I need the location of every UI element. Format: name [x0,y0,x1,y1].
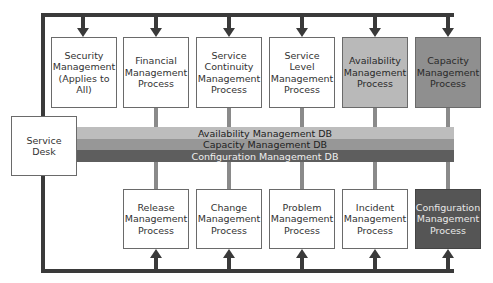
service-level-management-box[interactable]: Service Level Management Process [269,37,335,108]
box-label: Configuration Management Process [416,202,480,237]
availability-management-box[interactable]: Availability Management Process [342,37,408,108]
box-label: Financial Management Process [125,55,188,90]
capacity-management-box[interactable]: Capacity Management Process [415,37,481,108]
arrow-stem [373,15,377,29]
arrow-stem [154,15,158,29]
configuration-management-box[interactable]: Configuration Management Process [415,189,481,249]
left-frame-line-lower [41,174,45,273]
left-frame-line [41,13,45,117]
box-label: Security Management (Applies to All) [53,50,116,96]
box-label: Problem Management Process [271,202,334,237]
connector [300,107,304,128]
connector [300,161,304,190]
arrow-down-icon [77,28,89,37]
box-label: Availability Management Process [344,55,407,90]
connector [373,107,377,128]
box-label: Change Management Process [198,202,261,237]
connector [227,161,231,190]
arrow-down-icon [369,28,381,37]
top-frame-line [41,13,454,17]
box-label: Service Continuity Management Process [198,50,261,96]
connector [227,107,231,128]
arrow-stem [227,257,231,270]
security-management-box[interactable]: Security Management (Applies to All) [51,37,117,108]
bottom-frame-line [41,269,454,273]
financial-management-box[interactable]: Financial Management Process [123,37,189,108]
change-management-box[interactable]: Change Management Process [196,189,262,249]
arrow-stem [373,257,377,270]
arrow-down-icon [223,28,235,37]
release-management-box[interactable]: Release Management Process [123,189,189,249]
connector [446,161,450,190]
connector [154,107,158,128]
service-desk-box[interactable]: Service Desk [11,116,77,176]
arrow-down-icon [296,28,308,37]
connector [154,161,158,190]
box-label: Incident Management Process [344,202,407,237]
arrow-stem [154,257,158,270]
arrow-stem [300,257,304,270]
box-label: Capacity Management Process [417,55,480,90]
problem-management-box[interactable]: Problem Management Process [269,189,335,249]
availability-management-db: Availability Management DB [76,127,454,139]
capacity-management-db: Capacity Management DB [76,139,454,150]
arrow-stem [446,257,450,270]
service-continuity-management-box[interactable]: Service Continuity Management Process [196,37,262,108]
arrow-stem [81,15,85,29]
configuration-management-db: Configuration Management DB [76,150,454,162]
arrow-down-icon [442,28,454,37]
box-label: Service Level Management Process [271,50,334,96]
box-label: Release Management Process [125,202,188,237]
connector [446,107,450,128]
arrow-down-icon [150,28,162,37]
box-label: Service Desk [26,135,61,158]
arrow-stem [300,15,304,29]
arrow-stem [227,15,231,29]
incident-management-box[interactable]: Incident Management Process [342,189,408,249]
arrow-stem [446,15,450,29]
connector [373,161,377,190]
